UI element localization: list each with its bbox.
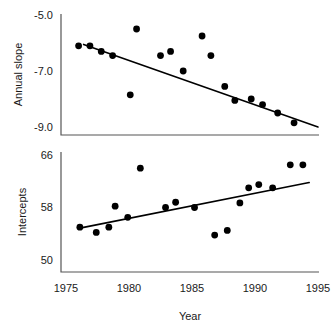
data-point [105,224,112,231]
y-tick-label: 50 [41,254,53,266]
x-tick-label: 1975 [54,282,78,294]
data-point [109,52,116,59]
data-point [269,184,276,191]
y-axis-title: Annual slope [12,43,24,107]
y-tick-label: -7.0 [34,65,53,77]
data-point [133,26,140,33]
y-tick-label: -5.0 [34,9,53,21]
y-tick-label: -9.0 [34,121,53,133]
data-point [180,68,187,75]
axis-spine [61,14,319,135]
y-tick-label: 58 [41,201,53,213]
x-tick-label: 1995 [306,282,330,294]
panel-intercepts: 665850Intercepts19751980198519901995Year [16,149,330,322]
trend-line [84,44,318,127]
data-point [112,203,119,210]
data-point [127,91,134,98]
x-tick-label: 1985 [180,282,204,294]
data-point [87,42,94,49]
data-point [162,204,169,211]
data-point [191,204,198,211]
data-point [75,42,82,49]
data-point [236,200,243,207]
data-point [224,227,231,234]
data-point [76,224,83,231]
x-tick-label: 1990 [243,282,267,294]
data-point [274,110,281,117]
data-point [211,232,218,239]
axis-spine [61,152,319,272]
data-point [299,161,306,168]
data-point [157,52,164,59]
panel-annual-slope: -5.0-7.0-9.0Annual slope [12,9,319,135]
data-point [98,48,105,55]
figure-container: -5.0-7.0-9.0Annual slope665850Intercepts… [0,0,336,332]
data-point [255,181,262,188]
data-point [291,119,298,126]
x-tick-label: 1980 [117,282,141,294]
two-panel-scatter-figure: -5.0-7.0-9.0Annual slope665850Intercepts… [0,0,336,332]
data-point [221,83,228,90]
y-tick-label: 66 [41,149,53,161]
data-point [167,48,174,55]
data-point [245,184,252,191]
data-point [93,229,100,236]
data-point [137,165,144,172]
data-point [231,97,238,104]
data-point [199,33,206,40]
data-point [287,161,294,168]
data-point [208,52,215,59]
data-point [248,96,255,103]
data-point [172,199,179,206]
data-point [124,214,131,221]
x-axis-title: Year [179,310,202,322]
y-axis-title: Intercepts [16,187,28,236]
data-point [259,101,266,108]
